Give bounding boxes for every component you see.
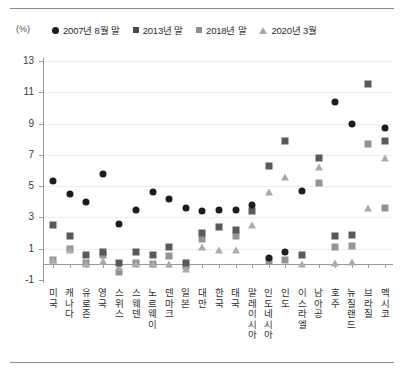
gridline — [44, 61, 392, 62]
data-point — [82, 261, 90, 268]
data-point — [282, 137, 289, 144]
data-point — [66, 233, 73, 240]
data-point — [149, 260, 157, 267]
data-point — [166, 244, 173, 251]
top-divider — [10, 8, 394, 9]
x-axis-label: 한국 — [213, 288, 226, 309]
x-axis-label: 미국 — [47, 288, 60, 309]
data-point — [265, 255, 272, 262]
data-point — [116, 259, 123, 266]
y-axis-tick-label: 11 — [4, 86, 34, 97]
legend-item[interactable]: 2018년 말 — [196, 23, 246, 37]
legend-item-label: 2020년 3월 — [271, 23, 316, 37]
data-point — [332, 244, 339, 251]
data-point — [332, 98, 339, 105]
data-point — [182, 266, 190, 273]
data-point — [249, 208, 256, 215]
x-axis-label: 인도 — [279, 288, 292, 309]
legend-item[interactable]: 2007년 8월 말 — [52, 23, 120, 37]
data-point — [232, 233, 239, 240]
y-axis-tick-label: 5 — [4, 180, 34, 191]
x-axis-line — [43, 264, 393, 265]
data-point — [364, 205, 372, 212]
x-axis-label: 인도네시아 — [262, 288, 275, 341]
legend-item[interactable]: 2013년 말 — [133, 23, 183, 37]
data-point — [83, 198, 90, 205]
data-point — [315, 180, 322, 187]
data-point — [50, 222, 57, 229]
y-axis-tick — [39, 155, 43, 156]
data-point — [215, 247, 223, 254]
data-point — [348, 120, 355, 127]
data-point — [348, 242, 355, 249]
x-axis-label: 태국 — [229, 288, 242, 309]
data-point — [365, 140, 372, 147]
y-axis-tick — [39, 217, 43, 218]
data-point — [232, 247, 240, 254]
x-axis-tick — [219, 264, 220, 268]
data-point — [365, 81, 372, 88]
data-point — [166, 252, 173, 259]
data-point — [282, 256, 289, 263]
x-axis-label: 말레이시아 — [246, 288, 259, 341]
x-axis-tick — [202, 264, 203, 268]
data-point — [348, 231, 355, 238]
legend-item-label: 2007년 8월 말 — [63, 23, 120, 37]
y-axis-tick — [39, 280, 43, 281]
data-point — [382, 205, 389, 212]
y-axis-tick — [39, 92, 43, 93]
legend-circle-icon — [52, 27, 59, 34]
gridline — [44, 92, 392, 93]
x-axis-label: 스위스 — [113, 288, 126, 320]
x-axis-label: 멕시코 — [379, 288, 392, 320]
y-axis-tick-label: 1 — [4, 243, 34, 254]
data-point — [133, 206, 140, 213]
data-point — [216, 206, 223, 213]
data-point — [66, 247, 74, 254]
x-axis-label: 캐나다 — [63, 288, 76, 320]
x-axis-label: 덴마크 — [163, 288, 176, 320]
data-point — [149, 189, 156, 196]
y-axis-tick — [39, 249, 43, 250]
data-point — [232, 206, 239, 213]
y-axis-unit-label: (%) — [16, 24, 30, 34]
x-axis-label: 영국 — [96, 288, 109, 309]
data-point — [331, 259, 339, 266]
gridline — [44, 155, 392, 156]
gridline — [44, 124, 392, 125]
gridline — [44, 186, 392, 187]
x-axis-label: 호주 — [329, 288, 342, 309]
data-point — [165, 261, 173, 268]
data-point — [166, 195, 173, 202]
y-axis-tick — [39, 186, 43, 187]
x-axis-label: 스웨덴 — [130, 288, 143, 320]
data-point — [281, 173, 289, 180]
legend-item-label: 2018년 말 — [206, 23, 246, 37]
data-point — [149, 251, 156, 258]
y-axis-tick-label: -1 — [4, 274, 34, 285]
chart-figure: (%) 2007년 8월 말2013년 말2018년 말2020년 3월 -11… — [0, 0, 404, 372]
x-axis-tick — [236, 264, 237, 268]
data-point — [348, 259, 356, 266]
bottom-divider — [10, 362, 394, 363]
data-point — [315, 164, 323, 171]
data-point — [232, 226, 239, 233]
y-axis-tick-label: 7 — [4, 149, 34, 160]
data-point — [182, 205, 189, 212]
y-axis-tick-label: 3 — [4, 211, 34, 222]
data-point — [315, 154, 322, 161]
data-point — [299, 187, 306, 194]
data-point — [199, 208, 206, 215]
x-axis-label: 이스라엘 — [296, 288, 309, 330]
data-point — [265, 189, 273, 196]
data-point — [133, 248, 140, 255]
legend-triangle-icon — [259, 27, 267, 34]
data-point — [83, 251, 90, 258]
legend-item[interactable]: 2020년 3월 — [259, 23, 316, 37]
x-axis-label: 일본 — [179, 288, 192, 309]
x-axis-tick — [285, 264, 286, 268]
data-point — [265, 162, 272, 169]
x-axis-label: 남아공 — [312, 288, 325, 320]
gridline — [44, 217, 392, 218]
x-axis-label: 뉴질랜드 — [345, 288, 358, 330]
